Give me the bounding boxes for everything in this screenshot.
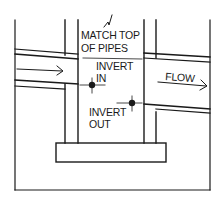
invert-in-label-1: INVERT: [96, 60, 134, 72]
zigzag-break-icon: [104, 15, 112, 27]
match-top-line: [83, 58, 142, 59]
invert-out-label-1: INVERT: [89, 106, 127, 118]
flow-label: FLOW: [165, 70, 196, 84]
invert-out-label-2: OUT: [89, 118, 111, 130]
manhole-diagram: MATCH TOP OF PIPES INVERT IN INVERT OUT …: [0, 0, 219, 202]
match-top-label-2: OF PIPES: [81, 42, 128, 54]
invert-in-label-2: IN: [96, 72, 106, 84]
base-slab: [56, 143, 166, 162]
inflow-arrow-icon: [17, 66, 63, 75]
outflow-pipe: [144, 53, 210, 113]
match-top-label-1: MATCH TOP: [81, 29, 140, 41]
